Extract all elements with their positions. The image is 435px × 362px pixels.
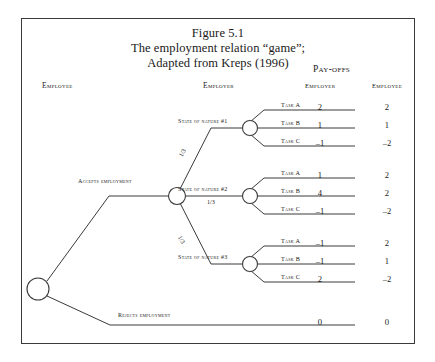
task-label-b-state-3: Task B <box>281 255 300 262</box>
payoff-employer-reject: 0 <box>308 317 332 327</box>
task-label-b-state-2: Task B <box>281 187 300 194</box>
payoff-employer-s3-c: 2 <box>308 274 332 284</box>
node-employer-state-1 <box>243 121 258 136</box>
task-label-b-state-1: Task B <box>281 119 300 126</box>
node-root-employee <box>27 278 49 300</box>
payoff-employee-s2-c: –2 <box>375 206 399 216</box>
task-label-c-state-1: Task C <box>281 137 300 144</box>
task-label-a-state-1: Task A <box>281 101 300 108</box>
payoff-employee-s2-b: 2 <box>375 188 399 198</box>
state-label-3: State of nature #3 <box>178 254 228 260</box>
edge-label-accepts-employment: Accepts employment <box>78 178 132 184</box>
payoff-employee-reject: 0 <box>375 317 399 327</box>
task-label-c-state-2: Task C <box>281 205 300 212</box>
payoff-employee-s2-a: 2 <box>375 170 399 180</box>
payoff-employee-s3-b: 1 <box>375 256 399 266</box>
payoff-employee-s3-c: –2 <box>375 274 399 284</box>
figure-container: Figure 5.1 The employment relation “game… <box>0 0 435 362</box>
payoff-employee-s1-a: 2 <box>375 102 399 112</box>
payoff-employee-s3-a: 2 <box>375 238 399 248</box>
payoff-employer-s2-a: 1 <box>308 170 332 180</box>
node-employer-state-2 <box>243 189 258 204</box>
payoff-employer-s2-b: 4 <box>308 188 332 198</box>
payoff-employee-s1-b: 1 <box>375 120 399 130</box>
node-employer-state-3 <box>243 257 258 272</box>
payoff-employer-s2-c: –1 <box>308 206 332 216</box>
probability-label-state-2: 1/3 <box>207 198 215 205</box>
game-tree-lines <box>0 0 435 362</box>
state-label-1: State of nature #1 <box>178 118 228 124</box>
state-label-2: State of nature #2 <box>178 186 228 192</box>
payoff-employee-s1-c: –2 <box>375 138 399 148</box>
payoff-employer-s1-c: –1 <box>308 138 332 148</box>
payoff-employer-s1-b: 1 <box>308 120 332 130</box>
payoff-employer-s3-b: –1 <box>308 256 332 266</box>
task-label-c-state-3: Task C <box>281 273 300 280</box>
edge-label-rejects-employment: Rejects employment <box>118 312 170 318</box>
payoff-employer-s1-a: 2 <box>308 102 332 112</box>
task-label-a-state-2: Task A <box>281 169 300 176</box>
task-label-a-state-3: Task A <box>281 237 300 244</box>
payoff-employer-s3-a: –1 <box>308 238 332 248</box>
